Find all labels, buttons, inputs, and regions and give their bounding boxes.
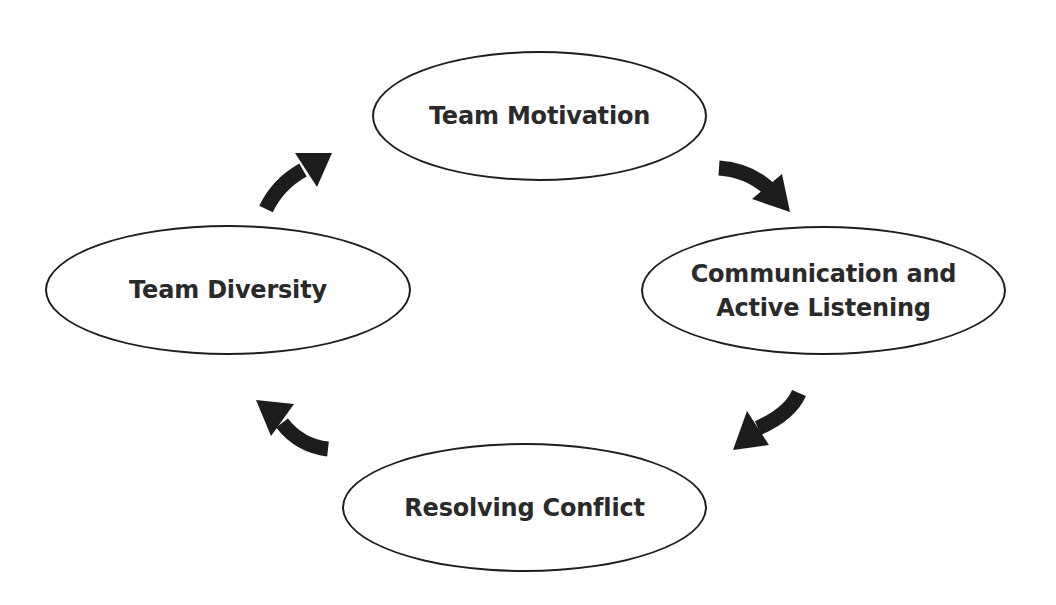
node-team-diversity: Team Diversity	[45, 225, 411, 355]
node-label: Resolving Conflict	[404, 491, 644, 525]
arrow-bottom-right-icon	[733, 393, 799, 450]
node-team-motivation: Team Motivation	[372, 51, 707, 181]
arrow-top-right-icon	[719, 168, 790, 212]
node-label: Team Diversity	[129, 273, 327, 307]
node-label: Team Motivation	[429, 99, 650, 133]
arrow-top-left-icon	[266, 153, 332, 209]
cycle-diagram: Team Motivation Communication and Active…	[0, 0, 1056, 605]
node-label: Communication and Active Listening	[691, 257, 957, 325]
node-resolving-conflict: Resolving Conflict	[342, 443, 707, 572]
arrow-bottom-left-icon	[256, 400, 328, 449]
node-communication-active-listening: Communication and Active Listening	[641, 226, 1006, 355]
